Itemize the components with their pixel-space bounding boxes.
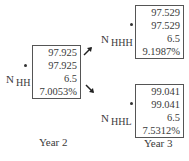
node-nhh-label: NHH — [6, 73, 30, 85]
node-nhhh-dot — [130, 23, 133, 26]
node-nhh-box: 97.925 97.925 6.5 7.0053% — [32, 45, 81, 99]
node-nhhh-value-4: 9.1987% — [136, 45, 183, 58]
node-nhh-value-1: 97.925 — [33, 46, 80, 59]
node-nhhl-value-2: 99.041 — [136, 98, 183, 111]
node-nhh-label-main: N — [6, 73, 14, 85]
node-nhhl-value-1: 99.041 — [136, 85, 183, 98]
node-nhhh-value-3: 6.5 — [136, 32, 183, 45]
node-nhh-value-3: 6.5 — [33, 72, 80, 85]
node-nhhh-label-main: N — [101, 33, 109, 45]
arrow-down-icon — [85, 84, 95, 94]
node-nhh-value-2: 97.925 — [33, 59, 80, 72]
node-nhhh-value-1: 97.529 — [136, 6, 183, 19]
node-nhhl-label: NHHL — [101, 112, 132, 124]
node-nhhh-label-sub: HHH — [111, 37, 133, 48]
node-nhhl-value-3: 6.5 — [136, 111, 183, 124]
year-3-label: Year 3 — [144, 137, 173, 149]
node-nhh-dot — [24, 64, 27, 67]
node-nhh-value-4: 7.0053% — [33, 85, 80, 98]
node-nhhl-box: 99.041 99.041 6.5 7.5312% — [135, 84, 184, 138]
node-nhhh-value-2: 97.529 — [136, 19, 183, 32]
arrow-up-icon — [83, 46, 93, 56]
node-nhhl-label-sub: HHL — [111, 116, 132, 127]
node-nhhl-label-main: N — [101, 112, 109, 124]
node-nhhh-label: NHHH — [101, 33, 133, 45]
year-2-label: Year 2 — [39, 136, 68, 148]
node-nhhh-box: 97.529 97.529 6.5 9.1987% — [135, 5, 184, 59]
node-nhhl-value-4: 7.5312% — [136, 124, 183, 137]
node-nhhl-dot — [130, 102, 133, 105]
node-nhh-label-sub: HH — [16, 77, 30, 88]
